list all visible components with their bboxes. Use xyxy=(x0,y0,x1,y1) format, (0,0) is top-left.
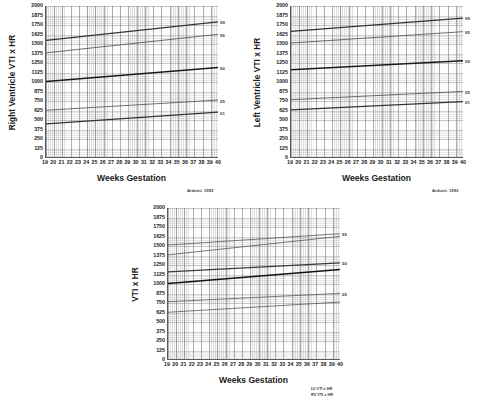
grid-line-vertical xyxy=(168,208,169,359)
x-tick-label: 35 xyxy=(296,361,302,367)
grid-line-horizontal xyxy=(291,92,463,93)
y-axis-title-rv-text: Right Ventricle VTI x HR xyxy=(9,34,18,130)
grid-line-horizontal xyxy=(291,35,463,36)
grid-line-vertical xyxy=(95,6,96,157)
grid-line-horizontal xyxy=(291,139,463,140)
y-tick-label: 1250 xyxy=(31,60,43,65)
grid-line-horizontal xyxy=(46,54,218,55)
x-tick-label: 36 xyxy=(304,361,310,367)
x-tick-label: 32 xyxy=(271,361,277,367)
grid-line-vertical xyxy=(250,208,251,359)
y-axis-title-lv: Left Ventricle VTI x HR xyxy=(251,6,265,158)
grid-line-horizontal xyxy=(291,25,463,26)
y-tick-label: 625 xyxy=(156,310,165,315)
x-tick-label: 33 xyxy=(402,159,408,165)
y-tick-label: 1500 xyxy=(153,243,165,248)
grid-line-vertical xyxy=(194,6,195,157)
grid-line-vertical xyxy=(325,208,326,359)
y-tick-label: 625 xyxy=(279,108,288,113)
y-tick-label: 250 xyxy=(156,338,165,343)
x-tick-label: 27 xyxy=(230,361,236,367)
x-tick-label: 32 xyxy=(149,159,155,165)
y-tick-label: 375 xyxy=(156,329,165,334)
grid-line-horizontal xyxy=(291,54,463,55)
x-tick-label: 29 xyxy=(124,159,130,165)
y-tick-label: 2000 xyxy=(153,205,165,210)
grid-line-vertical xyxy=(307,6,308,157)
percentile-line xyxy=(291,32,463,43)
grid-line-vertical xyxy=(104,6,105,157)
grid-line-vertical xyxy=(340,6,341,157)
grid-line-vertical xyxy=(62,6,63,157)
percentile-label-01: 01 xyxy=(220,110,225,115)
grid-line-vertical xyxy=(201,208,202,359)
x-tick-label: 39 xyxy=(207,159,213,165)
grid-line-vertical xyxy=(170,6,171,157)
y-tick-label: 2000 xyxy=(276,3,288,8)
y-axis-title-combined-text: VTI x HR xyxy=(131,267,140,301)
grid-line-vertical xyxy=(357,6,358,157)
y-axis-ticks-combined: 0125250375500625750875100011251250137515… xyxy=(141,208,167,360)
grid-line-vertical xyxy=(382,6,383,157)
y-axis-title-rv: Right Ventricle VTI x HR xyxy=(6,6,20,158)
plot-area-rv xyxy=(45,6,218,158)
y-tick-label: 750 xyxy=(156,300,165,305)
grid-line-vertical xyxy=(193,208,194,359)
y-tick-label: 500 xyxy=(156,319,165,324)
grid-line-horizontal xyxy=(168,294,340,295)
y-tick-label: 875 xyxy=(279,89,288,94)
x-tick-label: 25 xyxy=(91,159,97,165)
y-tick-label: 1000 xyxy=(153,281,165,286)
x-axis-ticks-rv: 1920212223242526272829303132333435363738… xyxy=(45,159,218,168)
x-tick-label: 22 xyxy=(67,159,73,165)
y-axis-title-combined: VTI x HR xyxy=(128,208,142,360)
x-tick-label: 27 xyxy=(108,159,114,165)
grid-line-horizontal xyxy=(46,35,218,36)
x-tick-label: 28 xyxy=(361,159,367,165)
plot-area-combined xyxy=(167,208,340,360)
grid-line-horizontal xyxy=(46,44,218,45)
x-tick-label: 24 xyxy=(83,159,89,165)
percentile-curves-rv xyxy=(46,6,218,157)
percentile-line xyxy=(168,263,340,272)
y-tick-label: 1875 xyxy=(276,13,288,18)
grid-line-horizontal xyxy=(46,92,218,93)
grid-line-vertical xyxy=(291,6,292,157)
grid-line-horizontal xyxy=(168,332,340,333)
grid-rv xyxy=(46,6,218,157)
grid-line-horizontal xyxy=(46,139,218,140)
y-tick-label: 1625 xyxy=(276,32,288,37)
grid-line-vertical xyxy=(211,6,212,157)
x-axis-ticks-lv: 1920212223242526272829303132333435363738… xyxy=(290,159,463,168)
y-tick-label: 1375 xyxy=(276,51,288,56)
x-tick-label: 20 xyxy=(172,361,178,367)
grid-line-horizontal xyxy=(168,275,340,276)
x-tick-label: 30 xyxy=(378,159,384,165)
x-tick-label: 33 xyxy=(279,361,285,367)
x-tick-label: 26 xyxy=(100,159,106,165)
percentile-label-50: 50 xyxy=(220,65,225,70)
grid-line-horizontal xyxy=(291,16,463,17)
grid-line-horizontal xyxy=(168,351,340,352)
grid-line-vertical xyxy=(79,6,80,157)
x-tick-label: 25 xyxy=(336,159,342,165)
y-tick-label: 1500 xyxy=(31,41,43,46)
y-tick-label: 1125 xyxy=(32,70,44,75)
x-tick-label: 30 xyxy=(255,361,261,367)
x-tick-label: 28 xyxy=(238,361,244,367)
percentile-curves-lv xyxy=(291,6,463,157)
grid-line-vertical xyxy=(242,208,243,359)
x-tick-label: 26 xyxy=(222,361,228,367)
grid-line-vertical xyxy=(87,6,88,157)
percentile-label-99: 99 xyxy=(220,19,225,24)
x-tick-label: 22 xyxy=(312,159,318,165)
x-tick-label: 35 xyxy=(419,159,425,165)
x-tick-label: 34 xyxy=(166,159,172,165)
y-tick-label: 500 xyxy=(34,117,43,122)
grid-line-horizontal xyxy=(46,63,218,64)
x-tick-label: 23 xyxy=(197,361,203,367)
y-tick-label: 1000 xyxy=(276,79,288,84)
legend-entry-lv: LV VTI x HR xyxy=(311,387,333,393)
x-tick-label: 29 xyxy=(246,361,252,367)
x-tick-label: 40 xyxy=(215,159,221,165)
